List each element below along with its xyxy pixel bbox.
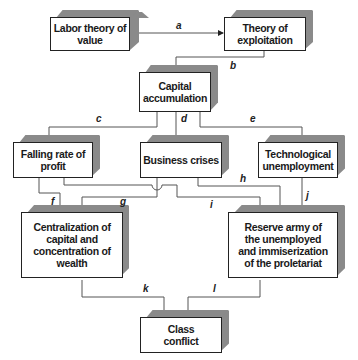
edge-label-f: f bbox=[51, 196, 54, 207]
edge-label-h: h bbox=[240, 173, 246, 184]
marx-theory-flow-diagram: Labor theory of value Theory of exploita… bbox=[0, 0, 358, 360]
edge-label-i: i bbox=[210, 199, 213, 210]
node-falling-rate-of-profit: Falling rate of profit bbox=[13, 142, 93, 178]
node-capital-accumulation: Capital accumulation bbox=[139, 72, 211, 112]
node-reserve-army: Reserve army of the unemployed and immis… bbox=[228, 212, 338, 278]
edge-label-k: k bbox=[143, 283, 149, 294]
node-theory-of-exploitation: Theory of exploitation bbox=[224, 17, 306, 51]
edge-label-l: l bbox=[213, 283, 216, 294]
edge-label-d: d bbox=[181, 113, 187, 124]
node-technological-unemployment: Technological unemployment bbox=[258, 142, 338, 178]
node-labor-theory: Labor theory of value bbox=[50, 17, 130, 51]
edge-label-b: b bbox=[230, 60, 236, 71]
edge-label-g: g bbox=[120, 196, 126, 207]
connector-lines bbox=[0, 0, 358, 360]
node-centralization-of-capital: Centralization of capital and concentrat… bbox=[21, 212, 123, 278]
node-class-conflict: Class conflict bbox=[140, 317, 222, 353]
edge-label-c: c bbox=[96, 113, 102, 124]
node-business-crises: Business crises bbox=[140, 142, 222, 178]
edge-label-e: e bbox=[250, 113, 256, 124]
edge-label-a: a bbox=[176, 20, 182, 31]
edge-label-j: j bbox=[306, 190, 309, 201]
